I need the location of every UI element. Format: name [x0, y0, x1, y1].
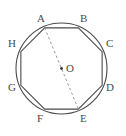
vertex-label-D: D: [106, 82, 114, 93]
geometry-figure: A B C D E F G H O: [0, 0, 126, 136]
vertex-label-F: F: [37, 113, 43, 124]
center-label-O: O: [66, 63, 74, 74]
vertex-label-H: H: [8, 38, 16, 49]
vertex-label-A: A: [37, 13, 45, 24]
vertex-label-E: E: [80, 113, 87, 124]
vertex-label-B: B: [80, 13, 87, 24]
center-dot: [60, 67, 63, 70]
vertex-label-C: C: [106, 38, 113, 49]
vertex-label-G: G: [8, 82, 16, 93]
geometry-canvas: [0, 0, 126, 136]
